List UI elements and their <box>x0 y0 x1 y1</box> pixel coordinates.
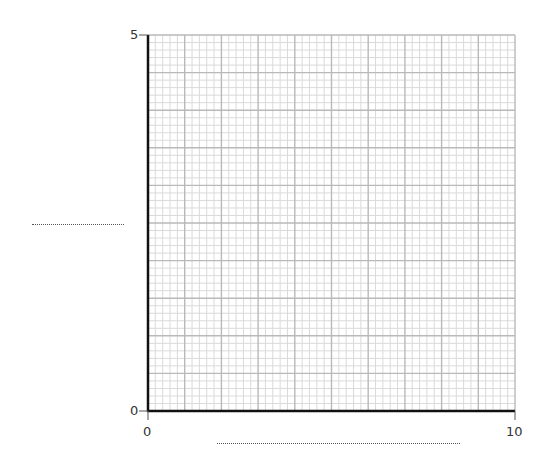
grid-lines <box>148 35 515 411</box>
y-axis-label-answer-line[interactable] <box>32 224 124 225</box>
x-axis-max-label: 10 <box>506 425 523 438</box>
y-axis-min-label: 0 <box>130 404 138 417</box>
y-axis-max-label: 5 <box>130 28 138 41</box>
x-axis-label-answer-line[interactable] <box>217 443 460 444</box>
x-axis-min-label: 0 <box>143 425 151 438</box>
graph-paper-grid <box>148 35 515 411</box>
